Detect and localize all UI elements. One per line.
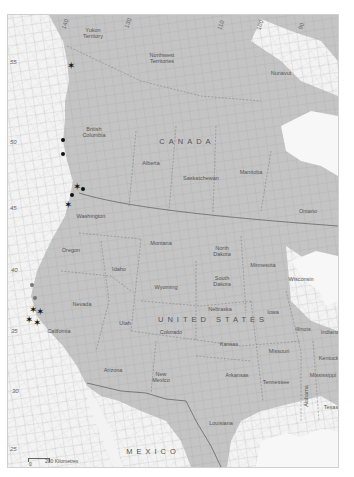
latitude-label-35: 35 (11, 328, 18, 334)
region-label-alabama: Texas (324, 404, 338, 410)
region-label-manitoba: Manitoba (240, 169, 263, 175)
latitude-label-50: 50 (10, 139, 17, 145)
region-label-nebraska: Nebraska (208, 306, 232, 312)
dot-marker[interactable] (61, 138, 65, 142)
star-marker[interactable]: ✶ (36, 307, 44, 317)
dot-marker-gray[interactable] (33, 296, 37, 300)
star-marker[interactable]: ✶ (73, 182, 81, 192)
country-label-mexico: MEXICO (126, 449, 180, 455)
region-label-indiana: Indiana (321, 329, 339, 335)
region-label-washington: Washington (77, 213, 106, 219)
region-label-ontario: Ontario (299, 208, 317, 214)
latitude-label-55: 55 (10, 59, 17, 65)
region-label-oregon: Oregon (62, 247, 80, 253)
region-label-arkansas: Tennessee (263, 379, 290, 385)
region-label-iowa: Iowa (267, 309, 279, 315)
star-marker[interactable]: ✶ (25, 315, 33, 325)
region-label-saskatchewan: Saskatchewan (183, 175, 219, 181)
latitude-label-40: 40 (11, 267, 18, 273)
star-marker[interactable]: ✶ (64, 200, 72, 210)
region-label-kansas: Kansas (220, 341, 238, 347)
latitude-label-25: 25 (10, 446, 17, 452)
dot-marker[interactable] (70, 193, 74, 197)
scale-bar-label: 200 Kilometres (45, 458, 78, 464)
region-label-new-mexico: NewMexico (148, 371, 174, 383)
region-label-northwest-territories: NorthwestTerritories (142, 52, 182, 64)
country-label-united-states: UNITED STATES (158, 317, 268, 323)
region-label-colorado: Colorado (160, 329, 182, 335)
region-label-minnesota: Minnesota (250, 262, 275, 268)
star-marker[interactable]: ✶ (33, 318, 41, 328)
dot-marker[interactable] (61, 152, 65, 156)
region-label-british-columbia: BritishColumbia (79, 126, 109, 138)
latitude-label-30: 30 (12, 388, 19, 394)
country-label-canada: CANADA (159, 139, 214, 145)
map-geography (8, 15, 338, 467)
region-label-mississippi: Alabama (303, 385, 309, 407)
region-label-nevada: Nevada (73, 301, 92, 307)
region-label-alberta: Alberta (142, 160, 159, 166)
region-label-yukon-territory: YukonTerritory (78, 27, 108, 39)
region-label-wyoming: Wyoming (155, 284, 178, 290)
region-label-montana: Montana (150, 240, 171, 246)
region-label-california: California (47, 328, 70, 334)
region-label-tennessee: Mississippi (310, 372, 337, 378)
region-label-nunavut: Nunavut (271, 70, 292, 76)
region-label-wisconsin: Wisconsin (288, 276, 313, 282)
scale-bar-zero: 0 (29, 461, 32, 467)
latitude-label-45: 45 (10, 205, 17, 211)
map-canvas[interactable]: CANADA UNITED STATES MEXICO YukonTerrito… (7, 14, 339, 468)
region-label-kentucky: Kentucky (319, 355, 339, 361)
region-label-oklahoma: Arkansas (226, 372, 249, 378)
dot-marker-gray[interactable] (30, 283, 34, 287)
region-label-missouri: Missouri (269, 348, 289, 354)
region-label-idaho: Idaho (112, 266, 126, 272)
region-label-north-dakota: NorthDakota (209, 245, 235, 257)
star-marker[interactable]: ✶ (67, 61, 75, 71)
region-label-utah: Utah (119, 320, 131, 326)
region-label-south-dakota: SouthDakota (209, 275, 235, 287)
dot-marker[interactable] (81, 187, 85, 191)
region-label-illinois: Illinois (295, 326, 310, 332)
region-label-texas: Louisiana (209, 420, 233, 426)
region-label-arizona: Arizona (104, 367, 123, 373)
